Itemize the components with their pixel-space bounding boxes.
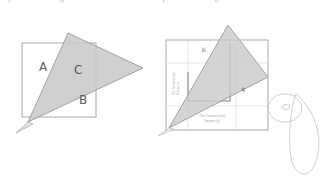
scroll-disc-outer	[268, 94, 302, 122]
scroll-disc-hub	[282, 105, 290, 110]
right-vertical-annotation: (P) Construction Square b	[172, 72, 180, 95]
left-label-a: A	[39, 60, 48, 74]
left-label-c: C	[74, 63, 82, 77]
left-triangle	[28, 33, 143, 122]
scroll-figure	[268, 94, 319, 174]
right-label-b: b	[202, 46, 206, 53]
scroll-tape-loop	[290, 94, 319, 174]
bottom-caption-line-2: Square (a)	[204, 119, 220, 123]
right-figure: b q (P) Construction Square b The Constr…	[158, 25, 268, 136]
left-triangle-tail	[16, 122, 33, 133]
bottom-caption-line-1: The Constructing	[199, 114, 225, 118]
vertical-annotation-line-2: Square b	[176, 82, 180, 95]
figure-canvas: A C B b q (P) Construction Square b The …	[0, 0, 326, 179]
left-label-b: B	[79, 93, 87, 107]
left-figure: A C B	[16, 33, 143, 133]
right-label-q: q	[241, 85, 245, 93]
